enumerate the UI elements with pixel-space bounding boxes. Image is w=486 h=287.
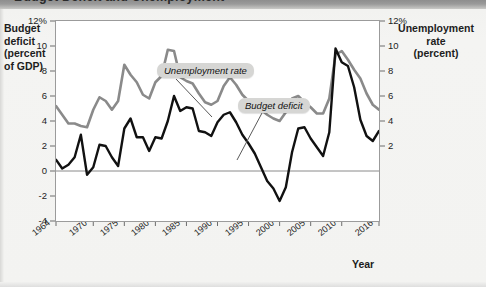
right-axis-tick-label: 2 xyxy=(388,140,393,151)
right-axis-tick-label: 10 xyxy=(388,40,399,51)
callout-budget-deficit: Budget deficit xyxy=(238,98,310,113)
series-canvas xyxy=(56,21,379,221)
page-bottom-edge xyxy=(0,282,486,287)
left-axis-tick-label: 6 xyxy=(13,90,47,101)
right-axis-tick-label: 8 xyxy=(388,65,393,76)
left-axis-tick-label: 10 xyxy=(13,40,47,51)
left-axis-tick-label: -2 xyxy=(13,190,47,201)
chart-figure: Budget Deficit and Unemployment Budget d… xyxy=(0,0,486,287)
left-axis-tick-label: 8 xyxy=(13,65,47,76)
left-axis-tick-label: 2 xyxy=(13,140,47,151)
left-axis-tick-label: 12% xyxy=(13,15,47,26)
right-axis-tick-label: 12% xyxy=(388,15,407,26)
left-axis-tick-label: 4 xyxy=(13,115,47,126)
right-axis-tick-label: 4 xyxy=(388,115,393,126)
plot-area xyxy=(55,20,380,222)
right-axis-tick-label: 6 xyxy=(388,90,393,101)
left-axis-tick-label: 0 xyxy=(13,165,47,176)
callout-unemployment-rate: Unemployment rate xyxy=(157,63,254,78)
